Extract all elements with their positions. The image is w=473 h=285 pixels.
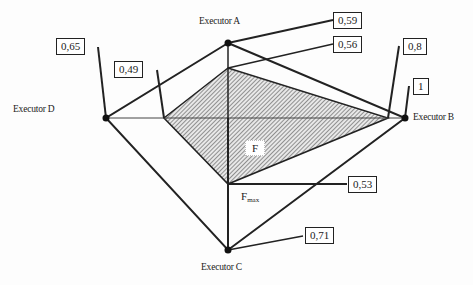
value-box-a-inner: 0,56 [333, 36, 362, 53]
leader-c-outer [228, 236, 303, 250]
leader-b-outer [405, 86, 409, 118]
fmax-label: Fmax [241, 190, 259, 204]
node-executor-d [103, 115, 110, 122]
label-executor-d: Executor D [13, 104, 55, 114]
node-executor-c [225, 247, 232, 254]
node-executor-a [225, 40, 232, 47]
region-f-label: F [245, 140, 265, 156]
value-box-c-inner: 0,53 [348, 176, 377, 193]
leader-d-outer [98, 47, 106, 118]
label-executor-a: Executor A [199, 16, 240, 26]
value-box-d-inner: 0,49 [114, 61, 143, 78]
node-executor-b [402, 115, 409, 122]
region-f-polygon [164, 68, 388, 184]
fmax-sub: max [247, 196, 259, 204]
value-box-c-outer: 0,71 [305, 227, 334, 244]
value-box-a-outer: 0,59 [333, 12, 362, 29]
label-executor-b: Executor B [413, 112, 454, 122]
value-box-b-inner: 0,8 [403, 38, 427, 55]
value-box-b-outer: 1 [413, 78, 429, 95]
leader-b-inner [388, 46, 399, 118]
leader-d-inner [157, 70, 164, 118]
label-executor-c: Executor C [201, 262, 242, 272]
value-box-d-outer: 0,65 [56, 38, 85, 55]
leader-a-outer [228, 20, 333, 43]
diagram-canvas: Executor A Executor B Executor C Executo… [0, 0, 473, 285]
